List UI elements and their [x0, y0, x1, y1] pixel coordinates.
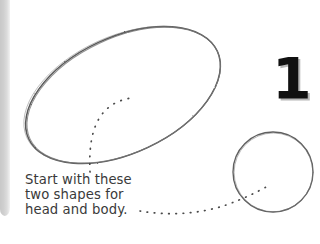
caption-line-1: Start with these [25, 172, 155, 187]
caption-line-3: head and body. [25, 202, 155, 217]
body-ellipse [3, 0, 242, 192]
caption-line-2: two shapes for [25, 187, 155, 202]
head-circle [233, 132, 313, 212]
step-number: 1 [272, 50, 306, 108]
caption-text: Start with these two shapes for head and… [25, 172, 155, 218]
illustration-page: 1 Start with these two shapes for head a… [0, 0, 320, 244]
leader-to-head [140, 186, 268, 214]
